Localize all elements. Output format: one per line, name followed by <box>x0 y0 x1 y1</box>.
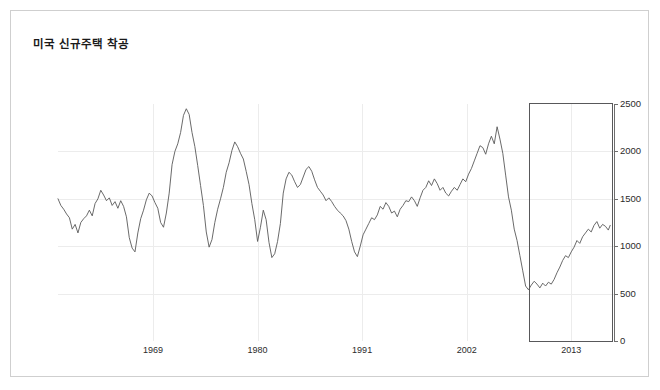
y-axis-tick-mark <box>614 246 618 247</box>
y-axis-tick-mark <box>614 151 618 152</box>
y-axis-tick-mark <box>614 104 618 105</box>
y-axis-tick-label: 500 <box>620 289 636 299</box>
x-axis-tick-label: 2013 <box>561 345 581 355</box>
chart-figure: 미국 신규주택 착공 25002000150010005000 19691980… <box>0 0 660 390</box>
y-axis-tick-label: 1500 <box>620 194 641 204</box>
x-axis-tick-label: 1980 <box>248 345 268 355</box>
x-axis-tick-label: 2002 <box>457 345 477 355</box>
x-axis-tick-label: 1969 <box>143 345 163 355</box>
y-axis-tick-label: 0 <box>620 336 625 346</box>
chart-panel-frame: 미국 신규주택 착공 25002000150010005000 19691980… <box>10 10 649 377</box>
y-axis-tick-mark <box>614 294 618 295</box>
y-axis-tick-mark <box>614 341 618 342</box>
chart-title: 미국 신규주택 착공 <box>33 35 129 51</box>
y-axis-tick-label: 2000 <box>620 146 641 156</box>
x-axis-tick-label: 1991 <box>352 345 372 355</box>
recovery-highlight-box <box>529 103 613 342</box>
y-axis-tick-label: 2500 <box>620 99 641 109</box>
y-axis-tick-label: 1000 <box>620 241 641 251</box>
y-axis-tick-mark <box>614 199 618 200</box>
y-axis-line <box>614 104 615 342</box>
